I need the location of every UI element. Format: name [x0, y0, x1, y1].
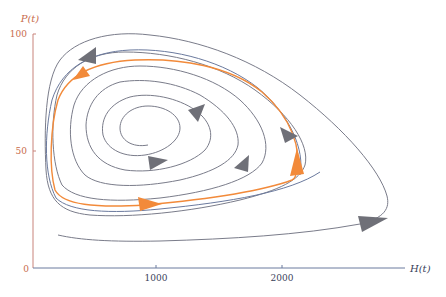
arrow-center-icon	[148, 156, 168, 170]
x-tick-1000: 1000	[145, 273, 168, 283]
y-tick-100: 100	[10, 29, 27, 39]
y-tick-0: 0	[23, 264, 29, 274]
y-tick-50: 50	[16, 146, 28, 156]
x-tick-2000: 2000	[271, 273, 294, 283]
arrow-orange-right-icon	[290, 148, 304, 176]
arrow-orange-top-left-icon	[73, 66, 90, 80]
y-axis-title: P(t)	[20, 13, 40, 24]
arrow-top-left-icon	[78, 47, 96, 64]
highlighted-orbit	[51, 60, 298, 206]
arrow-far-right-icon	[358, 216, 388, 232]
arrow-lower-mid-icon	[234, 155, 249, 172]
phase-portrait-chart: 100 50 0 1000 2000 P(t) H(t)	[0, 0, 446, 297]
x-axis-title: H(t)	[409, 263, 431, 274]
orange-arrows	[73, 66, 304, 211]
